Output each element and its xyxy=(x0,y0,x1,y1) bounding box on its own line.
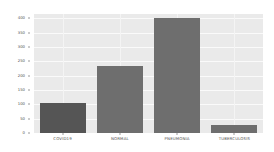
x-tick-mark xyxy=(62,133,63,135)
y-tick-label: 0 xyxy=(23,131,25,135)
x-axis: COVID19NORMALPNEUMONIATUBERCULOSIS xyxy=(34,133,263,149)
y-tick-mark xyxy=(28,118,30,119)
x-tick-mark xyxy=(234,133,235,135)
x-tick-label-tuberculosis: TUBERCULOSIS xyxy=(219,137,250,141)
y-tick-mark xyxy=(28,32,30,33)
plot-area xyxy=(34,14,263,133)
y-tick-label: 200 xyxy=(18,74,25,78)
x-tick-label-pneumonia: PNEUMONIA xyxy=(165,137,190,141)
y-tick-label: 250 xyxy=(18,59,25,63)
y-axis: 050100150200250300350400 xyxy=(0,14,30,133)
x-tick-mark xyxy=(119,133,120,135)
y-tick-mark xyxy=(28,18,30,19)
y-tick-label: 150 xyxy=(18,88,25,92)
y-tick-label: 100 xyxy=(18,102,25,106)
y-tick-label: 50 xyxy=(20,117,25,121)
x-tick-label-normal: NORMAL xyxy=(111,137,129,141)
y-tick-mark xyxy=(28,89,30,90)
x-tick-mark xyxy=(177,133,178,135)
bar-covid19 xyxy=(40,103,86,133)
bar-normal xyxy=(97,66,143,133)
y-tick-mark xyxy=(28,133,30,134)
x-tick-label-covid19: COVID19 xyxy=(53,137,72,141)
y-tick-mark xyxy=(28,61,30,62)
y-tick-mark xyxy=(28,46,30,47)
y-tick-label: 300 xyxy=(18,45,25,49)
bar-series xyxy=(34,14,263,133)
y-tick-mark xyxy=(28,75,30,76)
y-tick-mark xyxy=(28,104,30,105)
y-tick-label: 350 xyxy=(18,31,25,35)
bar-tuberculosis xyxy=(211,125,257,133)
bar-chart-figure: 050100150200250300350400 COVID19NORMALPN… xyxy=(0,0,274,152)
bar-pneumonia xyxy=(154,18,200,133)
y-tick-label: 400 xyxy=(18,16,25,20)
